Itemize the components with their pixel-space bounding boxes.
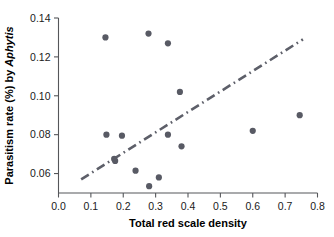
x-tick-label: 0.0 <box>51 200 66 212</box>
data-point <box>165 40 171 46</box>
x-tick-label: 0.8 <box>310 200 325 212</box>
x-tick-label: 0.1 <box>84 200 99 212</box>
x-axis-title: Total red scale density <box>129 217 248 229</box>
y-tick-label: 0.08 <box>30 128 51 140</box>
data-point <box>132 168 138 174</box>
data-points <box>102 30 302 189</box>
axis-spines <box>59 18 318 193</box>
y-tick-label: 0.06 <box>30 167 51 179</box>
x-tick-label: 0.4 <box>181 200 196 212</box>
data-point <box>103 132 109 138</box>
y-axis-title-prefix: Parasitism rate (%) by <box>3 67 15 185</box>
data-point <box>250 128 256 134</box>
data-point <box>146 183 152 189</box>
chart-canvas: 0.060.080.100.120.140.00.10.20.30.40.50.… <box>0 0 334 237</box>
x-tick-label: 0.7 <box>278 200 293 212</box>
y-tick-label: 0.10 <box>30 90 51 102</box>
data-point <box>297 112 303 118</box>
data-point <box>145 30 151 36</box>
data-point <box>177 89 183 95</box>
axes <box>54 18 318 198</box>
data-point <box>165 132 171 138</box>
axis-labels: 0.060.080.100.120.140.00.10.20.30.40.50.… <box>3 12 325 229</box>
x-tick-label: 0.5 <box>213 200 228 212</box>
data-point <box>178 143 184 149</box>
data-point <box>119 133 125 139</box>
y-tick-label: 0.14 <box>30 12 51 24</box>
data-point <box>156 174 162 180</box>
data-point <box>111 156 117 162</box>
x-tick-label: 0.6 <box>245 200 260 212</box>
data-point <box>102 34 108 40</box>
y-tick-label: 0.12 <box>30 51 51 63</box>
x-tick-label: 0.3 <box>148 200 163 212</box>
y-axis-title-species: Aphytis <box>3 26 15 67</box>
scatter-plot-figure: 0.060.080.100.120.140.00.10.20.30.40.50.… <box>0 0 334 237</box>
y-axis-title: Parasitism rate (%) by Aphytis <box>3 26 15 184</box>
x-tick-label: 0.2 <box>116 200 131 212</box>
